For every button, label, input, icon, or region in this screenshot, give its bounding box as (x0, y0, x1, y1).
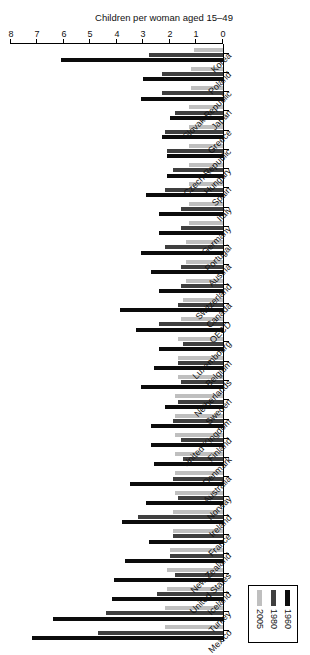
bar-1960 (53, 617, 223, 621)
value-tick (63, 39, 64, 44)
bar-group (11, 333, 223, 352)
bar-group (11, 564, 223, 583)
category-label-wrap: Korea (230, 49, 310, 59)
bar-1960 (61, 58, 223, 62)
value-tick-label: 7 (28, 29, 48, 39)
category-label-wrap: Italy (230, 203, 310, 213)
bar-group (11, 352, 223, 371)
value-tick-label: 1 (187, 29, 207, 39)
bar-group (11, 622, 223, 641)
category-label-wrap: Australia (230, 472, 310, 482)
bar-group (11, 468, 223, 487)
bar-1980 (98, 631, 223, 635)
bar-group (11, 506, 223, 525)
bar-1960 (144, 77, 224, 81)
category-label-wrap: Hungary (230, 164, 310, 174)
bar-group (11, 198, 223, 217)
bar-1960 (122, 520, 223, 524)
value-tick (196, 39, 197, 44)
category-label-wrap: Spain (230, 183, 310, 193)
value-axis-title-text: Children per woman aged 15–49 (77, 12, 233, 23)
legend-swatch (257, 590, 262, 606)
bar-1960 (154, 366, 223, 370)
value-tick-label: 8 (1, 29, 21, 39)
category-label-wrap: Netherlands (230, 376, 310, 386)
bar-group (11, 63, 223, 82)
category-label-wrap: Norway (230, 492, 310, 502)
bar-group (11, 140, 223, 159)
bar-group (11, 160, 223, 179)
bar-group (11, 487, 223, 506)
value-tick-label: 0 (213, 29, 233, 39)
category-label-wrap: Portugal (230, 241, 310, 251)
value-tick-label: 6 (54, 29, 74, 39)
category-label-wrap: OECD (230, 318, 310, 328)
category-label-wrap: New Zealand (230, 549, 310, 559)
bar-group (11, 294, 223, 313)
bar-1960 (149, 540, 223, 544)
category-label-wrap: Ireland (230, 511, 310, 521)
bar-group (11, 314, 223, 333)
category-label-wrap: Slovak Republic (230, 87, 310, 97)
legend-swatch (285, 590, 290, 606)
legend-swatch (271, 590, 276, 606)
bar-group (11, 44, 223, 63)
category-label-wrap: France (230, 530, 310, 540)
category-label-wrap: Belgium (230, 357, 310, 367)
category-label-wrap: Germany (230, 222, 310, 232)
value-axis-line (11, 43, 223, 44)
category-label-wrap: Denmark (230, 453, 310, 463)
category-label-wrap: Sweden (230, 395, 310, 405)
value-tick-label: 2 (160, 29, 180, 39)
bar-1960 (159, 212, 223, 216)
bar-group (11, 83, 223, 102)
bar-group (11, 102, 223, 121)
category-label-wrap: Switzerland (230, 280, 310, 290)
legend-label: 1980 (267, 609, 279, 629)
value-tick (37, 39, 38, 44)
bar-group (11, 545, 223, 564)
value-tick (143, 39, 144, 44)
value-tick (169, 39, 170, 44)
value-tick-label: 5 (81, 29, 101, 39)
bar-2005 (194, 48, 223, 52)
bar-group (11, 391, 223, 410)
category-label-wrap: Luxembourg (230, 338, 310, 348)
bar-group (11, 256, 223, 275)
category-label-wrap: Greece (230, 126, 310, 136)
legend-label: 2005 (253, 609, 265, 629)
bar-1960 (32, 636, 223, 640)
bar-1980 (181, 226, 223, 230)
category-label-wrap: Finland (230, 434, 310, 444)
bar-group (11, 410, 223, 429)
legend-label: 1960 (281, 609, 293, 629)
bar-group (11, 237, 223, 256)
bar-1980 (149, 53, 223, 57)
value-tick (90, 39, 91, 44)
category-label-wrap: Austria (230, 260, 310, 270)
category-label-wrap: Canada (230, 299, 310, 309)
bar-group (11, 429, 223, 448)
category-label-wrap: Czech Republic (230, 145, 310, 155)
bar-1960 (125, 559, 223, 563)
category-label-wrap: Japan (230, 106, 310, 116)
bar-1960 (159, 289, 223, 293)
legend: 196019802005 (248, 585, 298, 643)
category-label-wrap: Poland (230, 68, 310, 78)
value-tick (116, 39, 117, 44)
value-tick (10, 39, 11, 44)
value-tick (222, 39, 223, 44)
value-tick-label: 3 (134, 29, 154, 39)
category-label-wrap: United Kingdom (230, 415, 310, 425)
bar-1980 (106, 611, 223, 615)
bar-group (11, 217, 223, 236)
bar-group (11, 275, 223, 294)
bar-group (11, 525, 223, 544)
category-label-wrap: United States (230, 569, 310, 579)
bar-1960 (141, 97, 223, 101)
value-axis-title: Children per woman aged 15–49 (0, 12, 310, 23)
bar-2005 (189, 221, 223, 225)
value-tick-label: 4 (107, 29, 127, 39)
